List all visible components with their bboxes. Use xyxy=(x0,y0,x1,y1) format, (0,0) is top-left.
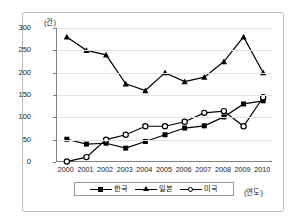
data-point-한국 xyxy=(123,146,128,151)
legend-marker-open-circle-icon xyxy=(188,187,193,192)
x-axis-title: (연도) xyxy=(244,186,263,197)
data-point-미국 xyxy=(202,110,207,115)
gridline xyxy=(57,117,272,118)
data-point-미국 xyxy=(123,132,128,137)
gridline xyxy=(57,95,272,96)
y-tick-label: 100 xyxy=(0,117,31,125)
y-tick-value: 250 xyxy=(0,47,31,55)
legend-item-미국[interactable]: 미국 xyxy=(180,185,218,194)
data-point-미국 xyxy=(182,119,187,124)
gridline xyxy=(57,73,272,74)
legend-swatch-icon xyxy=(90,185,112,194)
data-point-미국 xyxy=(241,124,246,129)
y-tick-label: 50 xyxy=(0,140,31,148)
data-point-한국 xyxy=(241,101,246,106)
data-point-미국 xyxy=(64,159,69,164)
chart-figure: (건) 050100150200250300 20002001200220032… xyxy=(0,0,306,224)
data-point-한국 xyxy=(202,123,207,128)
y-tick-mark xyxy=(53,73,56,74)
y-tick-mark xyxy=(53,140,56,141)
y-tick-label: 300 xyxy=(0,28,31,36)
y-tick-value: 0 xyxy=(0,158,31,166)
y-tick-mark xyxy=(53,162,56,163)
data-point-한국 xyxy=(163,132,168,137)
y-tick-mark xyxy=(53,50,56,51)
data-point-미국 xyxy=(162,124,167,129)
legend-label: 한국 xyxy=(114,185,128,192)
y-tick-label: 0 xyxy=(0,162,31,170)
y-axis-title: (건) xyxy=(44,16,56,27)
y-tick-mark xyxy=(53,117,56,118)
y-tick-mark xyxy=(53,95,56,96)
data-point-한국 xyxy=(84,142,89,147)
data-point-미국 xyxy=(84,154,89,159)
data-point-일본 xyxy=(64,34,70,40)
legend-marker-filled-square-icon xyxy=(98,187,103,192)
legend-item-한국[interactable]: 한국 xyxy=(90,185,128,194)
legend-label: 일본 xyxy=(159,185,173,192)
y-tick-label: 250 xyxy=(0,50,31,58)
legend-swatch-icon xyxy=(180,185,202,194)
data-point-일본 xyxy=(240,34,246,40)
gridline xyxy=(57,28,272,29)
x-tick-label: 2010 xyxy=(245,166,279,173)
legend-swatch-icon xyxy=(135,185,157,194)
plot-area xyxy=(56,28,272,162)
series-line-일본 xyxy=(67,37,263,91)
legend-item-일본[interactable]: 일본 xyxy=(135,185,173,194)
data-point-미국 xyxy=(143,124,148,129)
y-tick-value: 300 xyxy=(0,24,31,32)
gridline xyxy=(57,140,272,141)
y-tick-value: 100 xyxy=(0,114,31,122)
legend-label: 미국 xyxy=(204,185,218,192)
y-tick-value: 50 xyxy=(0,136,31,144)
y-tick-mark xyxy=(53,28,56,29)
chart-legend: 한국일본미국 xyxy=(74,182,234,196)
y-tick-value: 200 xyxy=(0,69,31,77)
legend-marker-filled-triangle-icon xyxy=(143,186,149,191)
data-point-한국 xyxy=(182,126,187,131)
data-point-미국 xyxy=(221,108,226,113)
gridline xyxy=(57,50,272,51)
y-tick-label: 200 xyxy=(0,73,31,81)
y-tick-value: 150 xyxy=(0,91,31,99)
y-tick-label: 150 xyxy=(0,95,31,103)
